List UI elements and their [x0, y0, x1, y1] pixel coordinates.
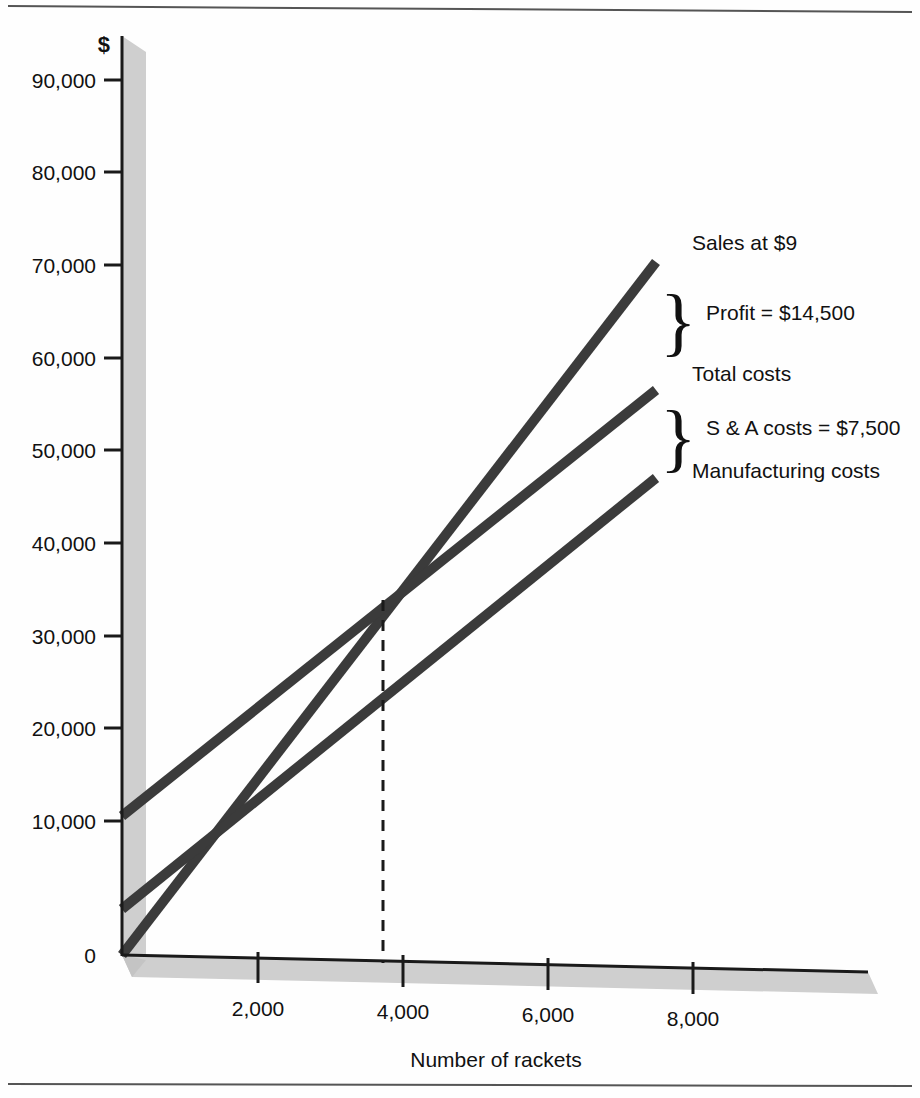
- breakeven-chart: 90,000 80,000 70,000 60,000 50,000 40,00…: [0, 0, 920, 1098]
- series-label-manufacturing-costs: Manufacturing costs: [692, 459, 880, 482]
- series-label-sales: Sales at $9: [692, 231, 797, 254]
- bottom-divider-rule: [8, 1084, 912, 1086]
- y-tick-label-70000: 70,000: [32, 254, 96, 277]
- profit-brace-icon: }: [660, 279, 696, 363]
- x-tick-label-4000: 4,000: [377, 1000, 430, 1023]
- y-tick-label-40000: 40,000: [32, 532, 96, 555]
- sa-costs-brace-icon: }: [660, 395, 696, 479]
- chart-figure: 90,000 80,000 70,000 60,000 50,000 40,00…: [0, 0, 920, 1098]
- x-tick-label-2000: 2,000: [232, 997, 285, 1020]
- y-tick-label-30000: 30,000: [32, 625, 96, 648]
- top-divider-rule: [8, 6, 912, 12]
- y-tick-label-0: 0: [84, 944, 96, 967]
- annotation-sa-costs: S & A costs = $7,500: [706, 416, 900, 439]
- x-tick-label-8000: 8,000: [667, 1007, 720, 1030]
- y-tick-label-50000: 50,000: [32, 439, 96, 462]
- x-axis-title: Number of rackets: [410, 1048, 582, 1071]
- series-label-total-costs: Total costs: [692, 362, 791, 385]
- series-line-manufacturing-costs: [122, 478, 656, 909]
- y-tick-label-90000: 90,000: [32, 69, 96, 92]
- x-axis-3d-shadow: [122, 955, 878, 994]
- y-tick-label-10000: 10,000: [32, 810, 96, 833]
- y-tick-label-80000: 80,000: [32, 161, 96, 184]
- y-axis-currency-symbol: $: [98, 32, 110, 57]
- y-tick-label-60000: 60,000: [32, 347, 96, 370]
- x-tick-label-6000: 6,000: [522, 1003, 575, 1026]
- y-axis-ticks: [104, 80, 122, 821]
- y-tick-label-20000: 20,000: [32, 717, 96, 740]
- annotation-profit: Profit = $14,500: [706, 301, 855, 324]
- y-axis-3d-shadow: [122, 36, 146, 960]
- series-line-total-costs: [122, 390, 656, 816]
